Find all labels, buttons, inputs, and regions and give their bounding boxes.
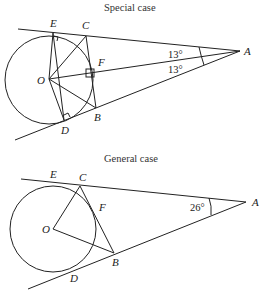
segment-CB <box>80 186 114 253</box>
diagram-canvas: Special case E C A F O B D 13° 13° Gen <box>0 0 264 295</box>
tangent-line-bottom <box>28 202 246 289</box>
point-label-F: F <box>98 201 106 213</box>
point-label-D: D <box>60 124 69 136</box>
point-label-B: B <box>94 111 101 123</box>
point-label-C: C <box>82 19 90 31</box>
segment-OB <box>49 79 96 108</box>
segment-OC <box>53 186 80 229</box>
point-label-E: E <box>49 168 57 180</box>
angle-label: 26° <box>190 202 205 213</box>
point-label-F: F <box>97 56 105 68</box>
point-label-A: A <box>251 196 259 208</box>
tangent-line-top <box>21 179 246 202</box>
angle-label-bottom: 13° <box>168 64 183 75</box>
segment-OE <box>49 33 53 79</box>
special-case-figure: Special case E C A F O B D 13° 13° <box>5 2 251 140</box>
line-OA <box>49 51 240 79</box>
segment-OB <box>53 229 114 253</box>
point-label-E: E <box>49 17 57 29</box>
right-angle-mark-D <box>64 113 70 117</box>
angle-label-top: 13° <box>168 49 183 60</box>
angle-arc-A <box>209 198 211 215</box>
general-case-figure: General case E C A F O B D 26° <box>10 153 259 289</box>
special-case-title: Special case <box>104 2 156 13</box>
segment-ED <box>53 33 64 120</box>
point-label-A: A <box>243 45 251 57</box>
point-label-B: B <box>112 256 119 268</box>
point-label-D: D <box>69 272 78 284</box>
general-case-title: General case <box>104 153 158 164</box>
point-label-O: O <box>42 223 50 235</box>
tangent-line-bottom <box>15 51 240 140</box>
point-label-O: O <box>37 74 45 86</box>
point-label-C: C <box>79 171 87 183</box>
